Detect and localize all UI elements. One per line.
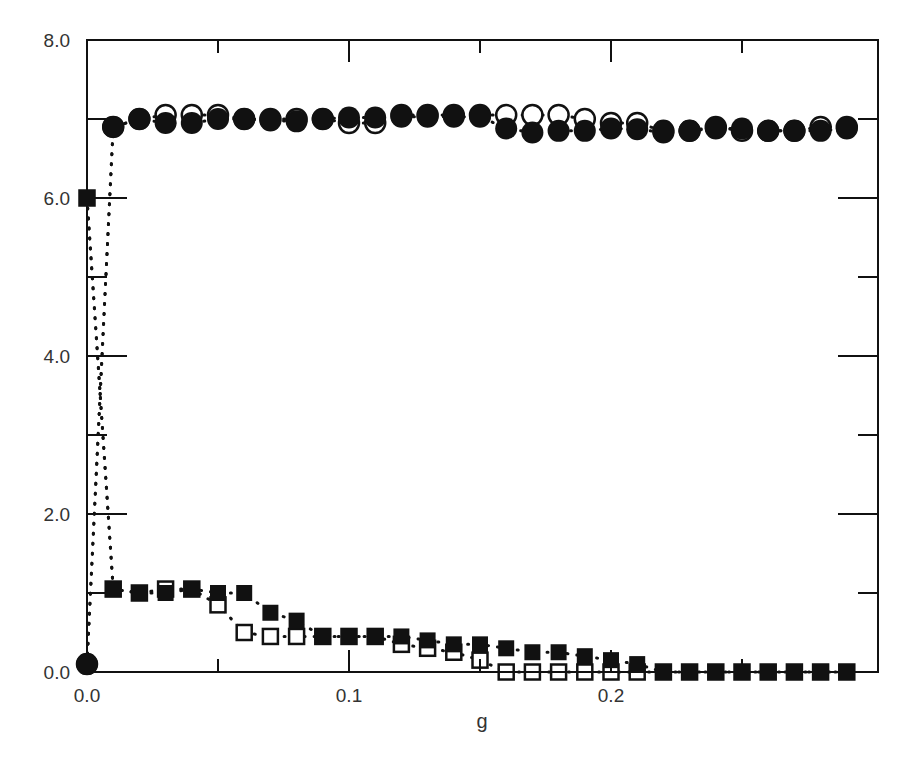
data-point-filled-circle <box>652 121 674 143</box>
x-tick-label: 0.0 <box>74 685 100 706</box>
data-point-filled-circle <box>207 108 229 130</box>
data-point-filled-circle <box>338 106 360 128</box>
data-point-filled-square <box>472 636 488 652</box>
data-point-filled-circle <box>286 110 308 132</box>
data-point-filled-square <box>289 613 305 629</box>
data-point-filled-circle <box>836 117 858 139</box>
data-point-filled-circle <box>155 112 177 134</box>
dotted-connector <box>87 115 847 664</box>
data-point-filled-square <box>498 640 514 656</box>
data-point-filled-square <box>551 644 567 660</box>
data-point-filled-circle <box>574 120 596 142</box>
data-point-filled-circle <box>312 108 334 130</box>
data-point-filled-square <box>236 585 252 601</box>
data-point-filled-circle <box>233 108 255 130</box>
series-square-open <box>80 191 855 680</box>
data-point-filled-circle <box>521 121 543 143</box>
data-point-filled-square <box>367 628 383 644</box>
data-point-filled-circle <box>259 110 281 132</box>
data-point-filled-square <box>262 605 278 621</box>
y-tick-label: 6.0 <box>44 188 70 209</box>
data-point-open-square <box>289 629 304 644</box>
data-point-filled-square <box>131 585 147 601</box>
data-point-filled-circle <box>469 106 491 128</box>
data-point-filled-circle <box>810 120 832 142</box>
x-tick-label: 0.2 <box>598 685 624 706</box>
data-point-filled-circle <box>705 117 727 139</box>
data-point-filled-circle <box>417 106 439 128</box>
data-point-filled-square <box>420 632 436 648</box>
data-point-filled-circle <box>731 117 753 139</box>
data-point-filled-square <box>158 585 174 601</box>
y-tick-label: 2.0 <box>44 504 70 525</box>
data-point-filled-square <box>577 648 593 664</box>
data-point-filled-circle <box>390 106 412 128</box>
data-point-filled-circle <box>548 120 570 142</box>
data-point-filled-square <box>210 585 226 601</box>
data-point-filled-circle <box>364 106 386 128</box>
data-point-filled-circle <box>181 112 203 134</box>
data-point-filled-circle <box>600 117 622 139</box>
dotted-connector <box>87 198 847 672</box>
data-point-filled-circle <box>128 108 150 130</box>
data-point-filled-square <box>184 581 200 597</box>
data-point-filled-square <box>315 628 331 644</box>
dotted-connector <box>87 198 847 672</box>
x-axis-title: g <box>476 710 487 732</box>
data-point-filled-circle <box>679 120 701 142</box>
data-point-filled-square <box>393 628 409 644</box>
data-point-filled-circle <box>626 118 648 140</box>
data-series <box>76 105 858 680</box>
data-point-filled-circle <box>495 117 517 139</box>
data-point-filled-circle <box>757 120 779 142</box>
scatter-plot: 0.00.10.20.02.04.06.08.0 g <box>0 0 905 774</box>
x-tick-label: 0.1 <box>336 685 362 706</box>
data-point-open-square <box>237 625 252 640</box>
data-point-open-square <box>263 629 278 644</box>
y-tick-label: 0.0 <box>44 662 70 683</box>
series-square-filled <box>79 190 855 680</box>
data-point-filled-square <box>341 628 357 644</box>
y-tick-label: 4.0 <box>44 346 70 367</box>
data-point-filled-square <box>629 656 645 672</box>
dotted-connector <box>87 117 847 664</box>
data-point-filled-square <box>524 644 540 660</box>
y-tick-label: 8.0 <box>44 30 70 51</box>
data-point-filled-square <box>446 636 462 652</box>
data-point-filled-circle <box>783 120 805 142</box>
data-point-filled-square <box>105 581 121 597</box>
data-point-filled-circle <box>443 106 465 128</box>
